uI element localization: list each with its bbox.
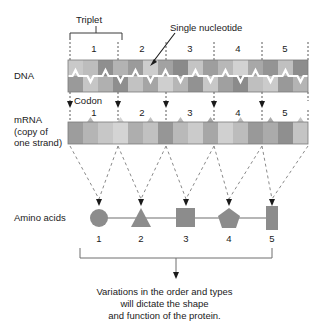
mrna-nucleotide [143,117,158,144]
triplet-label: Triplet [76,14,102,26]
dna-nucleotide-top [83,60,98,76]
triplet-bracket [70,26,122,40]
amino-acid-shape-circle [90,209,108,227]
codon-to-amino-lines [70,146,308,199]
number-label: 2 [134,44,150,54]
dna-row-label: DNA [14,70,34,82]
dna-nucleotide-bottom [278,76,293,92]
number-label: 2 [134,108,150,118]
mrna-nucleotide [203,117,218,144]
mrna-blocks [68,117,308,144]
mrna-nucleotide [293,117,308,144]
number-label: 1 [86,44,102,54]
number-label: 1 [91,234,107,244]
dna-nucleotide-top [113,60,128,76]
mrna-nucleotide [278,122,293,144]
protein-bracket [80,248,272,279]
number-label: 3 [182,44,198,54]
mrna-nucleotide [263,117,278,144]
mrna-label-line1: mRNA [14,114,62,126]
number-label: 4 [230,108,246,118]
amino-acid-shape-square [176,208,195,227]
dna-nucleotide-top [263,60,278,76]
dna-nucleotide-top [173,60,188,76]
mrna-nucleotide [218,122,233,144]
amino-acids-row-label: Amino acids [14,212,66,224]
codon-label: Codon [74,95,102,107]
mrna-nucleotide [233,117,248,144]
mrna-nucleotide [188,122,203,144]
dna-nucleotide-bottom [218,76,233,92]
mrna-nucleotide [68,122,83,144]
dna-nucleotide-top [293,60,308,76]
mrna-nucleotide [248,122,263,144]
number-label: 5 [264,234,280,244]
mrna-nucleotide [173,117,188,144]
dna-nucleotide-top [233,60,248,76]
mrna-nucleotide [83,117,98,144]
mrna-strand [68,117,308,144]
number-label: 3 [178,234,194,244]
amino-arrowheads [96,199,275,206]
dna-nucleotide-bottom [248,76,263,92]
number-label: 5 [277,108,293,118]
dna-nucleotide-bottom [128,76,143,92]
single-nucleotide-label: Single nucleotide [170,22,242,34]
dna-nucleotide-top [203,60,218,76]
caption-line-3: and function of the protein. [0,310,329,322]
number-label: 1 [86,108,102,118]
mrna-nucleotide [98,122,113,144]
amino-acid-shape-rectangle [266,206,278,230]
number-label: 5 [277,44,293,54]
dna-nucleotide-bottom [158,76,173,92]
mrna-nucleotide [158,122,173,144]
caption-line-1: Variations in the order and types [0,286,329,299]
dna-nucleotide-bottom [188,76,203,92]
mrna-nucleotide [113,117,128,144]
dna-nucleotide-bottom [98,76,113,92]
mrna-label-line2: (copy of [14,126,62,138]
mrna-nucleotide [128,122,143,144]
amino-acid-shape-pentagon [218,208,240,228]
number-label: 4 [230,44,246,54]
caption-line-2: will dictate the shape [0,298,329,311]
dna-nucleotide-bottom [68,76,83,92]
number-label: 4 [221,234,237,244]
number-label: 3 [182,108,198,118]
mrna-label-line3: one strand) [14,137,62,149]
number-label: 2 [133,234,149,244]
dna-translation-diagram: Triplet Single nucleotide Codon DNA mRNA… [0,0,329,322]
mrna-row-label: mRNA (copy of one strand) [14,114,62,149]
dna-strand [68,60,308,92]
